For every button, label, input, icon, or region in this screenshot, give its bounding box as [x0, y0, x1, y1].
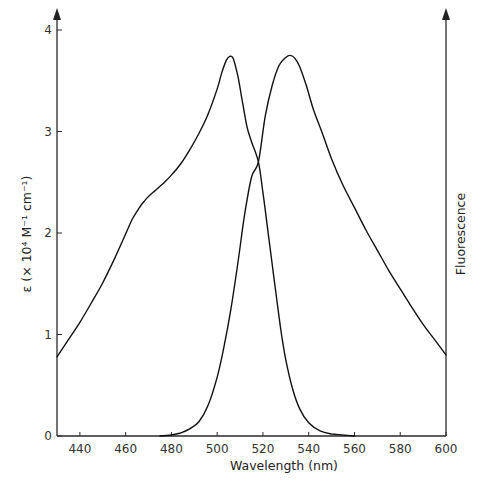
y-axis-right-title: Fluorescence	[453, 193, 468, 276]
x-tick-label: 480	[160, 442, 183, 456]
y-axis-left-title: ε (× 10⁴ M⁻¹ cm⁻¹)	[19, 176, 34, 293]
absorption-curve	[57, 56, 355, 436]
x-axis-title: Wavelength (nm)	[230, 458, 338, 473]
y-tick-label: 1	[44, 328, 52, 342]
x-tick-label: 600	[435, 442, 458, 456]
x-tick-label: 560	[343, 442, 366, 456]
y-tick-label: 0	[44, 429, 52, 443]
fluorescence-curve	[160, 55, 446, 436]
x-tick-label: 500	[206, 442, 229, 456]
x-tick-label: 440	[68, 442, 91, 456]
y-tick-label: 4	[44, 23, 52, 37]
x-tick-label: 580	[389, 442, 412, 456]
axes	[53, 8, 450, 436]
ticks: 44046048050052054056058060001234	[44, 23, 457, 456]
x-tick-label: 460	[114, 442, 137, 456]
curves	[57, 55, 446, 436]
x-tick-label: 540	[297, 442, 320, 456]
y-axis-left-arrow-icon	[53, 8, 61, 20]
x-tick-label: 520	[251, 442, 274, 456]
y-tick-label: 3	[44, 125, 52, 139]
spectra-chart: 44046048050052054056058060001234 Wavelen…	[0, 0, 486, 491]
y-tick-label: 2	[44, 226, 52, 240]
y-axis-right-arrow-icon	[442, 8, 450, 20]
